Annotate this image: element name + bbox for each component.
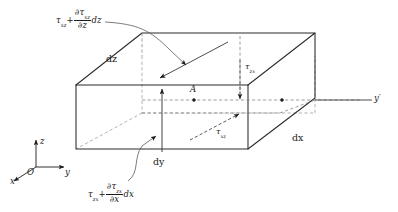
point-A-dot — [192, 98, 195, 101]
top-formula-base-symbol: τ — [56, 15, 61, 25]
top-stress-formula: τxz+∂τxz∂zdz — [56, 9, 101, 31]
tau-zx-subscript: zx — [250, 68, 255, 74]
top-formula-denominator: ∂z — [74, 21, 91, 31]
tau-zx-label: τzx — [245, 63, 255, 73]
bottom-formula-plus: + — [98, 189, 105, 199]
box-hidden-edges — [76, 56, 315, 149]
top-formula-plus: + — [66, 15, 73, 25]
bottom-formula-leader — [128, 136, 156, 181]
top-formula-numerator-subscript: xz — [84, 14, 90, 20]
axis-x-label: x — [10, 177, 15, 186]
tau-xz-top-arrow — [160, 42, 228, 78]
bottom-formula-fraction: ∂τzx∂x — [106, 182, 123, 204]
top-formula-numerator: ∂τ — [75, 7, 84, 17]
bottom-formula-numerator: ∂τ — [107, 181, 116, 191]
dimension-dy-label: dy — [153, 157, 164, 167]
bottom-formula-differential: dx — [123, 189, 133, 199]
bottom-stress-formula: τzx+∂τzx∂xdx — [88, 183, 134, 205]
top-formula-differential: dz — [91, 15, 101, 25]
tau-xz-subscript: xz — [221, 133, 226, 139]
stress-element-drawing — [0, 0, 398, 212]
tau-zx-symbol: τ — [245, 62, 249, 71]
figure-canvas: τxz+∂τxz∂zdz τzx+∂τzx∂xdx τzx τxz A dz d… — [0, 0, 398, 212]
tau-xz-lower-arrow — [190, 114, 239, 140]
dimension-dx-label: dx — [292, 133, 303, 143]
bottom-formula-base-subscript: zx — [93, 196, 99, 202]
axis-y-label: y — [65, 168, 70, 177]
bottom-formula-denominator: ∂x — [106, 195, 123, 205]
tau-xz-symbol: τ — [216, 127, 220, 136]
top-formula-fraction: ∂τxz∂z — [74, 8, 91, 30]
axis-origin-label: O — [27, 168, 34, 177]
bottom-formula-numerator-subscript: zx — [116, 188, 122, 194]
axis-z-label: z — [40, 137, 44, 146]
top-formula-base-subscript: xz — [61, 22, 67, 28]
dimension-dz-label: dz — [106, 54, 117, 64]
point-A-label: A — [190, 85, 196, 94]
bottom-formula-base-symbol: τ — [88, 189, 93, 199]
midplane-dot-right — [280, 98, 283, 101]
axis-y-prime-label: y′ — [374, 94, 381, 103]
tau-xz-label: τxz — [216, 128, 226, 138]
coordinate-triad — [14, 140, 64, 181]
top-formula-leader — [105, 22, 186, 65]
